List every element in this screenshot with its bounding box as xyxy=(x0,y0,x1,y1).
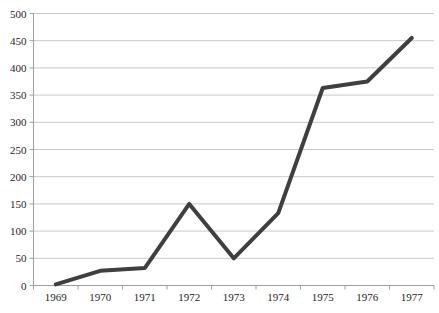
x-tick-label: 1975 xyxy=(312,291,335,303)
x-tick-label: 1974 xyxy=(267,291,290,303)
x-tick-label: 1969 xyxy=(45,291,68,303)
y-tick-label: 300 xyxy=(10,116,27,128)
x-tick-label: 1971 xyxy=(134,291,156,303)
chart-svg: 0501001502002503003504004505001969197019… xyxy=(0,0,439,313)
y-tick-label: 250 xyxy=(10,144,27,156)
y-tick-label: 500 xyxy=(10,8,27,20)
y-tick-label: 100 xyxy=(10,225,27,237)
x-tick-label: 1970 xyxy=(89,291,112,303)
y-tick-label: 50 xyxy=(16,252,28,264)
y-tick-label: 350 xyxy=(10,89,27,101)
y-tick-label: 200 xyxy=(10,171,27,183)
y-tick-label: 450 xyxy=(10,35,27,47)
x-tick-label: 1972 xyxy=(178,291,200,303)
line-chart: 0501001502002503003504004505001969197019… xyxy=(0,0,439,313)
x-tick-label: 1973 xyxy=(223,291,246,303)
x-tick-label: 1977 xyxy=(401,291,424,303)
x-tick-label: 1976 xyxy=(356,291,379,303)
y-tick-label: 150 xyxy=(10,198,27,210)
data-series-line xyxy=(56,38,412,284)
y-tick-label: 0 xyxy=(21,280,27,292)
y-tick-label: 400 xyxy=(10,62,27,74)
